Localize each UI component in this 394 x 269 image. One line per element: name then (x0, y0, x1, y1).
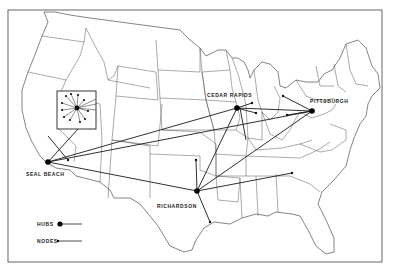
label-cedar-rapids: CEDAR RAPIDS (207, 92, 252, 98)
west-coast-inset (57, 91, 96, 129)
legend-hubs-label: HUBS (37, 221, 54, 227)
hub-seal-beach (45, 159, 51, 165)
legend-nodes-label: NODES (37, 238, 58, 244)
hub-cedar-rapids (234, 105, 240, 111)
label-seal-beach: SEAL BEACH (26, 171, 64, 177)
legend-symbols (57, 221, 82, 242)
us-network-map (0, 0, 394, 269)
hub-richardson (194, 188, 200, 194)
hub-pittsburgh (309, 108, 315, 114)
label-pittsburgh: PITTSBURGH (310, 98, 349, 104)
label-richardson: RICHARDSON (157, 203, 197, 209)
